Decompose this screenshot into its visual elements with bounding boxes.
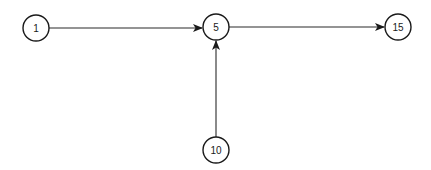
node-5: 5 — [203, 14, 229, 40]
node-15-label: 15 — [392, 22, 404, 33]
graph-canvas: 1 5 15 10 — [0, 0, 431, 170]
node-1-label: 1 — [33, 23, 39, 34]
node-5-label: 5 — [213, 22, 219, 33]
node-1: 1 — [23, 15, 49, 41]
node-15: 15 — [385, 14, 411, 40]
node-10: 10 — [203, 137, 229, 163]
node-10-label: 10 — [210, 145, 222, 156]
